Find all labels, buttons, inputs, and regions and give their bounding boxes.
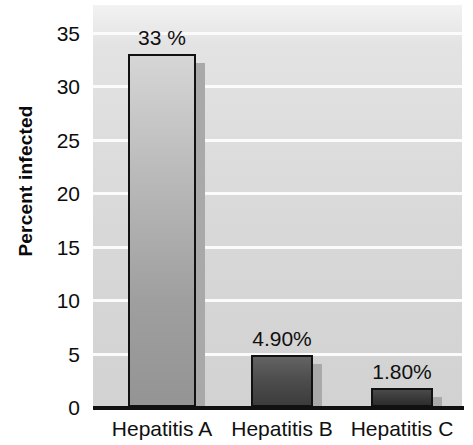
y-axis-tick-label: 20 — [57, 183, 80, 204]
y-axis-tick-label: 5 — [68, 343, 80, 364]
bar-chart: Percent infected 05101520253035 33 %4.90… — [0, 0, 473, 445]
y-axis-tick-label: 35 — [57, 23, 80, 44]
bar-hepatitis-a[interactable] — [128, 54, 196, 407]
y-axis-tick-label: 30 — [57, 76, 80, 97]
y-axis-tick-labels: 05101520253035 — [0, 0, 88, 445]
y-axis-tick-label: 0 — [68, 397, 80, 418]
category-label: Hepatitis B — [231, 417, 333, 441]
category-label: Hepatitis A — [112, 417, 212, 441]
bar-hepatitis-c[interactable] — [371, 388, 433, 407]
bar-value-label: 33 % — [138, 26, 186, 50]
bar-hepatitis-b[interactable] — [251, 355, 313, 407]
y-axis-tick-label: 15 — [57, 236, 80, 257]
bar-value-label: 1.80% — [372, 360, 432, 384]
x-axis-line — [93, 406, 464, 410]
bar-value-label: 4.90% — [252, 327, 312, 351]
category-label: Hepatitis C — [351, 417, 454, 441]
y-axis-tick-label: 10 — [57, 290, 80, 311]
y-axis-tick-label: 25 — [57, 129, 80, 150]
